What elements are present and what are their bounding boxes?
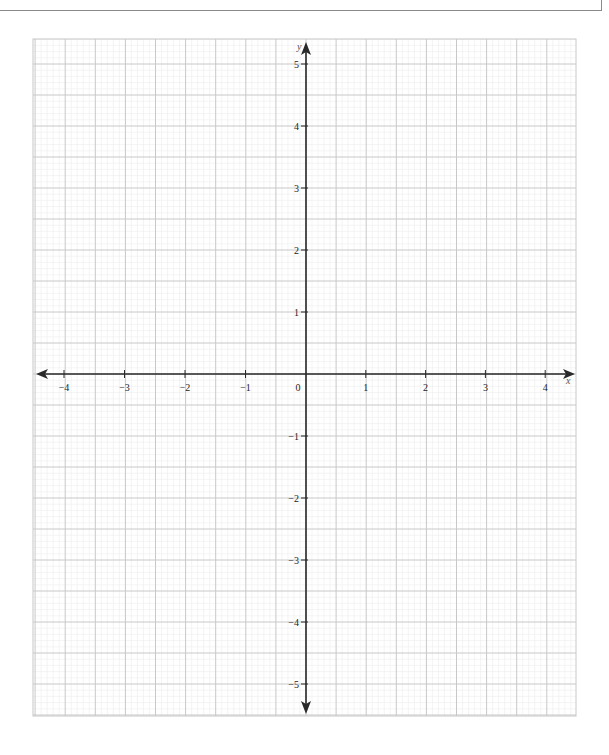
x-tick-label: −2: [180, 382, 191, 393]
y-tick-label: −1: [288, 431, 299, 442]
axes: [36, 42, 575, 714]
origin-label: 0: [296, 382, 301, 393]
x-tick-label: 3: [483, 382, 488, 393]
y-tick-label: −5: [288, 679, 299, 690]
y-axis-label: y: [296, 41, 302, 52]
y-tick-label: −2: [288, 493, 299, 504]
y-tick-label: 4: [294, 121, 299, 132]
y-tick-label: 2: [294, 245, 299, 256]
y-tick-label: 5: [294, 59, 299, 70]
grid-border: [33, 39, 576, 716]
x-tick-label: 1: [363, 382, 368, 393]
x-axis-label: x: [565, 375, 571, 386]
minor-grid: [33, 39, 576, 716]
y-tick-label: −4: [288, 617, 299, 628]
y-tick-label: 1: [294, 307, 299, 318]
y-tick-label: 3: [294, 183, 299, 194]
coordinate-plane: −4−3−2−101234 54321−1−2−3−4−5 x y: [0, 0, 609, 755]
x-tick-label: 2: [423, 382, 428, 393]
x-tick-label: −1: [240, 382, 251, 393]
x-tick-label: 4: [543, 382, 548, 393]
y-tick-label: −3: [288, 555, 299, 566]
major-grid: [33, 39, 576, 716]
x-tick-label: −4: [59, 382, 70, 393]
x-tick-label: −3: [119, 382, 130, 393]
